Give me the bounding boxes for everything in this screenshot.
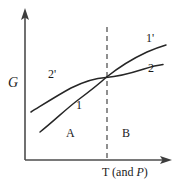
curve-label-1: 1 bbox=[76, 99, 82, 111]
y-axis-label: G bbox=[8, 76, 18, 90]
curve-1-path bbox=[40, 45, 166, 132]
region-label-a: A bbox=[66, 127, 75, 139]
x-axis-label-plain: T (and bbox=[102, 165, 136, 179]
curve-label-2-prime: 2' bbox=[48, 68, 56, 80]
free-energy-diagram: G T (and P) 1 1' 2' 2 A B bbox=[0, 0, 177, 184]
x-axis-label-tail: ) bbox=[144, 165, 148, 179]
curve-label-2: 2 bbox=[148, 62, 154, 74]
x-axis-label-pressure: P bbox=[136, 165, 143, 179]
region-label-b: B bbox=[122, 127, 130, 139]
curve-label-1-prime: 1' bbox=[146, 32, 154, 44]
plot-area bbox=[0, 0, 177, 184]
x-axis-label: T (and P) bbox=[102, 166, 148, 178]
